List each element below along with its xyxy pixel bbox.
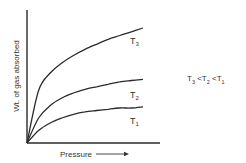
temperature-relation: T3 <T2 <T1 [187, 74, 225, 85]
label-t3: T3 [130, 36, 140, 47]
label-t2: T2 [130, 90, 140, 101]
curve-t1 [27, 107, 143, 143]
label-t1: T1 [130, 116, 140, 127]
x-axis-label: Pressure [60, 150, 93, 159]
arrow-head-icon [124, 152, 129, 156]
y-axis-label: Wt. of gas absorbed [12, 40, 21, 112]
